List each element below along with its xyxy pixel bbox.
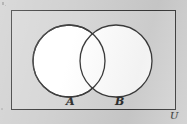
venn-circles-svg [0,0,187,124]
venn-diagram-figure: A B U [0,0,187,124]
scan-speck-icon [5,5,6,6]
universal-set-label: U [170,111,178,121]
set-a-label: A [66,96,75,107]
set-b-label: B [115,96,124,107]
set-b-circle [80,25,152,97]
scan-speck-icon [1,108,3,110]
scan-speck-icon [2,2,4,5]
